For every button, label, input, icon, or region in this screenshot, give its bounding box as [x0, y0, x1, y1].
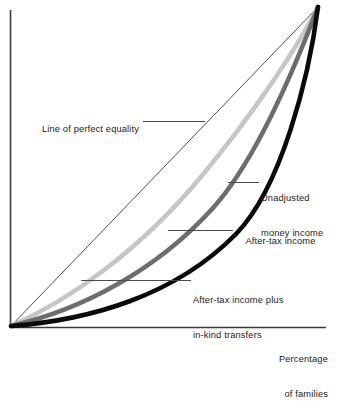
annotation-in-kind-line1: After-tax income plus [193, 295, 283, 307]
annotation-in-kind-line2: in-kind transfers [193, 330, 283, 342]
annotation-line-of-perfect-equality: Line of perfect equality [31, 112, 139, 147]
x-axis-label-line1: Percentage [279, 354, 328, 366]
x-axis-label-line2: of families [279, 389, 328, 401]
annotation-after-tax-text: After-tax income [245, 236, 315, 246]
annotation-unadjusted-line1: Unadjusted [261, 193, 323, 205]
annotation-after-tax-plus-in-kind: After-tax income plus in-kind transfers [193, 272, 283, 365]
annotation-equality-text: Line of perfect equality [42, 124, 139, 134]
x-axis-label: Percentage of families [279, 331, 328, 401]
annotation-after-tax-income: After-tax income [235, 224, 316, 259]
